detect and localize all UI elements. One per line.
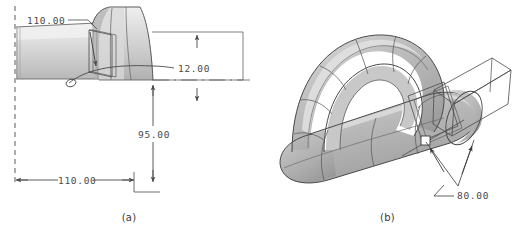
dimension-95: 95.00 [138, 85, 170, 182]
prism-edge-3 [490, 58, 492, 92]
angle-arrow-2 [462, 146, 472, 174]
angle-arrow-1 [430, 148, 444, 172]
angle-leader-elbow [434, 185, 444, 196]
dimension-bottom-110: 110.00 [16, 172, 160, 192]
panel-a-drawing: 110.00 12.00 95.00 [0, 0, 258, 229]
dimension-value-bottom-110: 110.00 [58, 175, 97, 186]
vertex-square-marker [421, 136, 430, 145]
panel-b: 80.00 (b) [258, 0, 517, 229]
figure-root: 110.00 12.00 95.00 [0, 0, 517, 229]
point-handle-marker [65, 78, 77, 88]
panel-b-caption: (b) [258, 212, 517, 223]
panel-b-drawing: 80.00 [258, 0, 517, 229]
dimension-80: 80.00 [426, 140, 489, 201]
dimension-value-top-110: 110.00 [27, 15, 66, 26]
dimension-value-12: 12.00 [178, 63, 210, 74]
panel-a-caption: (a) [0, 212, 258, 223]
dimension-value-95: 95.00 [138, 129, 170, 140]
panel-a: 110.00 12.00 95.00 [0, 0, 258, 229]
dimension-value-80: 80.00 [457, 190, 489, 201]
